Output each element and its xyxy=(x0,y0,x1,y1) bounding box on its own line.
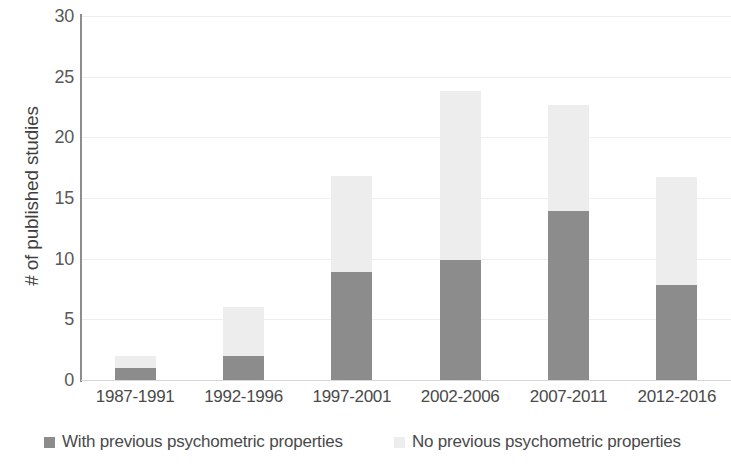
legend-swatch-icon xyxy=(44,437,55,448)
gridline xyxy=(81,319,731,320)
x-tick-label: 1992-1996 xyxy=(184,387,304,407)
y-tick-label: 5 xyxy=(4,309,74,330)
y-tick-label: 0 xyxy=(4,370,74,391)
x-tick-label: 2002-2006 xyxy=(400,387,520,407)
gridline xyxy=(81,77,731,78)
gridline xyxy=(81,16,731,17)
y-tick-label: 25 xyxy=(4,66,74,87)
y-tick-label: 10 xyxy=(4,248,74,269)
bar-group[interactable] xyxy=(656,177,697,380)
gridline xyxy=(81,198,731,199)
bar-group[interactable] xyxy=(548,105,589,380)
bar-segment[interactable] xyxy=(331,176,372,272)
bar-group[interactable] xyxy=(223,307,264,380)
x-tick-label: 2012-2016 xyxy=(617,387,731,407)
bar-segment[interactable] xyxy=(115,368,156,380)
y-axis-tick-labels: 051015202530 xyxy=(0,0,74,400)
x-axis-tick-labels: 1987-19911992-19961997-20012002-20062007… xyxy=(81,387,731,417)
x-tick-label: 1987-1991 xyxy=(75,387,195,407)
legend-swatch-icon xyxy=(394,437,405,448)
y-tick-label: 20 xyxy=(4,127,74,148)
bar-segment[interactable] xyxy=(440,91,481,260)
gridline xyxy=(81,137,731,138)
gridline xyxy=(81,259,731,260)
y-tick-label: 30 xyxy=(4,6,74,27)
bar-segment[interactable] xyxy=(440,260,481,380)
x-tick-label: 2007-2011 xyxy=(509,387,629,407)
legend-item[interactable]: No previous psychometric properties xyxy=(394,432,681,452)
bar-segment[interactable] xyxy=(548,211,589,380)
bar-segment[interactable] xyxy=(115,356,156,368)
plot-area xyxy=(81,16,731,380)
chart-legend: With previous psychometric propertiesNo … xyxy=(0,432,731,464)
stacked-bar-chart: # of published studies 051015202530 1987… xyxy=(0,0,731,464)
bar-segment[interactable] xyxy=(223,307,264,356)
bar-segment[interactable] xyxy=(223,356,264,380)
legend-label: With previous psychometric properties xyxy=(62,432,343,452)
legend-item[interactable]: With previous psychometric properties xyxy=(44,432,343,452)
y-axis-line xyxy=(80,14,82,382)
bar-segment[interactable] xyxy=(656,177,697,285)
bar-segment[interactable] xyxy=(331,272,372,380)
y-tick-label: 15 xyxy=(4,188,74,209)
bar-group[interactable] xyxy=(115,356,156,380)
bar-group[interactable] xyxy=(331,176,372,380)
x-tick-label: 1997-2001 xyxy=(292,387,412,407)
bar-segment[interactable] xyxy=(656,285,697,380)
bar-segment[interactable] xyxy=(548,105,589,212)
x-axis-line xyxy=(81,380,731,381)
bar-group[interactable] xyxy=(440,91,481,380)
legend-label: No previous psychometric properties xyxy=(412,432,681,452)
